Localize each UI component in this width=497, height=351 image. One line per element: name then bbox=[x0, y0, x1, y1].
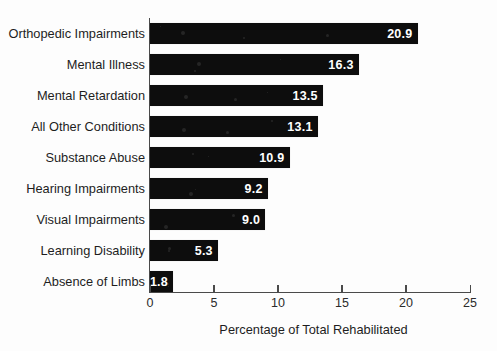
x-axis-title: Percentage of Total Rehabilitated bbox=[0, 322, 497, 337]
scan-speckle bbox=[182, 128, 186, 132]
x-tick-label: 0 bbox=[147, 296, 154, 310]
x-tick bbox=[405, 285, 406, 293]
bar-value-label: 13.1 bbox=[287, 120, 312, 134]
scan-speckle bbox=[326, 34, 329, 37]
bar-value-label: 20.9 bbox=[387, 27, 412, 41]
x-tick bbox=[213, 285, 214, 293]
scan-speckle bbox=[194, 70, 196, 72]
scan-speckle bbox=[184, 95, 188, 99]
scan-speckle bbox=[267, 92, 268, 93]
category-label: All Other Conditions bbox=[0, 119, 145, 134]
scan-speckle bbox=[160, 26, 161, 27]
category-label: Orthopedic Impairments bbox=[0, 26, 145, 41]
x-tick-label: 15 bbox=[335, 296, 349, 310]
bar: 5.3 bbox=[150, 240, 218, 261]
bar: 13.5 bbox=[150, 85, 323, 106]
category-label: Absence of Limbs bbox=[0, 274, 145, 289]
x-tick bbox=[149, 285, 150, 293]
bar: 16.3 bbox=[150, 54, 359, 75]
scan-speckle bbox=[168, 250, 170, 252]
bar: 9.0 bbox=[150, 209, 265, 230]
scan-speckle bbox=[232, 214, 235, 217]
scan-speckle bbox=[168, 247, 171, 250]
bar-value-label: 13.5 bbox=[292, 89, 317, 103]
bar-value-label: 9.2 bbox=[245, 182, 263, 196]
scan-speckle bbox=[189, 192, 193, 196]
x-tick-label: 10 bbox=[271, 296, 285, 310]
category-label: Hearing Impairments bbox=[0, 181, 145, 196]
x-axis-line bbox=[149, 292, 471, 293]
bar-value-label: 5.3 bbox=[195, 244, 213, 258]
x-tick bbox=[341, 285, 342, 293]
scan-speckle bbox=[181, 31, 185, 35]
scan-speckle bbox=[280, 59, 281, 60]
scan-speckle bbox=[168, 286, 169, 287]
bar-value-label: 10.9 bbox=[259, 151, 284, 165]
x-tick bbox=[277, 285, 278, 293]
bar-value-label: 16.3 bbox=[328, 58, 353, 72]
bar: 13.1 bbox=[150, 116, 318, 137]
category-label: Mental Retardation bbox=[0, 88, 145, 103]
scan-speckle bbox=[208, 156, 209, 157]
bar: 20.9 bbox=[150, 23, 418, 44]
category-label: Mental Illness bbox=[0, 57, 145, 72]
bar: 1.8 bbox=[150, 271, 173, 292]
scan-speckle bbox=[195, 189, 196, 190]
x-tick-label: 5 bbox=[211, 296, 218, 310]
category-label: Substance Abuse bbox=[0, 150, 145, 165]
scan-speckle bbox=[271, 120, 273, 122]
scan-speckle bbox=[192, 153, 194, 155]
scan-speckle bbox=[243, 37, 245, 39]
category-label: Learning Disability bbox=[0, 243, 145, 258]
bar-chart: Orthopedic Impairments20.9Mental Illness… bbox=[0, 0, 497, 351]
scan-speckle bbox=[234, 98, 237, 101]
scan-speckle bbox=[164, 225, 168, 229]
scan-speckle bbox=[197, 62, 201, 66]
scan-speckle bbox=[226, 131, 229, 134]
x-tick-label: 25 bbox=[463, 296, 477, 310]
x-axis-end-cap bbox=[470, 285, 471, 293]
bar-value-label: 9.0 bbox=[242, 213, 260, 227]
x-tick-label: 20 bbox=[399, 296, 413, 310]
bar: 9.2 bbox=[150, 178, 268, 199]
category-label: Visual Impairments bbox=[0, 212, 145, 227]
bar-value-label: 1.8 bbox=[150, 275, 168, 289]
bar: 10.9 bbox=[150, 147, 290, 168]
